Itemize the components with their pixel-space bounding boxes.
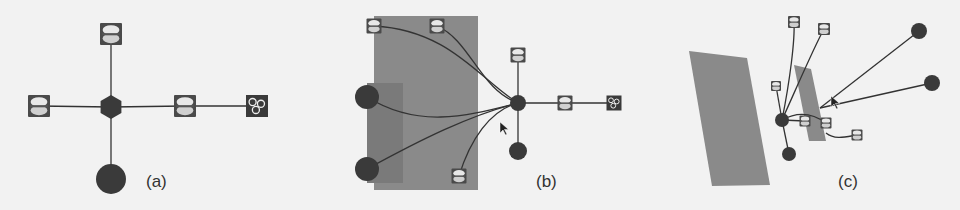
diagram-canvas [0,0,960,210]
circle-node-icon [782,147,796,161]
disk-node-icon [852,130,863,141]
mouse-cursor-icon [831,96,840,109]
panel-label-a: (a) [146,172,167,192]
disk-node-icon [821,118,832,129]
panel-label-b: (b) [536,172,557,192]
circle-node-icon [924,75,940,91]
circle-node-icon [509,142,527,160]
disk-node-icon [511,48,526,63]
hub-node-icon [775,113,789,127]
disk-node-icon [430,19,445,34]
disk-node-icon [100,23,122,45]
disk-node-icon [558,96,573,111]
disk-node-icon [367,19,382,34]
plane-2-1 [794,65,826,141]
hub-node-icon [101,95,122,119]
plane-2-0 [689,51,770,186]
hub-node-icon [510,95,526,111]
group-node-icon [246,95,268,117]
circle-node-icon [355,157,379,181]
panel-label-c: (c) [838,172,858,192]
disk-node-icon [788,16,800,28]
circle-node-icon [355,85,379,109]
mouse-cursor-icon [500,122,509,135]
circle-node-icon [911,23,927,39]
circle-node-icon [96,164,126,194]
edge [111,106,185,107]
disk-node-icon [800,116,811,127]
figure: (a) (b) (c) [0,0,960,210]
group-node-icon [607,96,622,111]
disk-node-icon [818,23,830,35]
disk-node-icon [28,95,50,117]
disk-node-icon [174,95,196,117]
disk-node-icon [452,169,467,184]
disk-node-icon [771,81,781,91]
